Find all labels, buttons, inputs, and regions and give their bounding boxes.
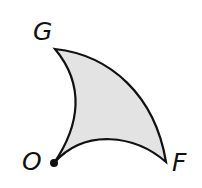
shaded-region: [54, 49, 166, 163]
label-f: F: [172, 150, 186, 175]
label-o: O: [22, 149, 42, 174]
label-g: G: [33, 19, 52, 44]
point-o-dot: [50, 159, 58, 167]
